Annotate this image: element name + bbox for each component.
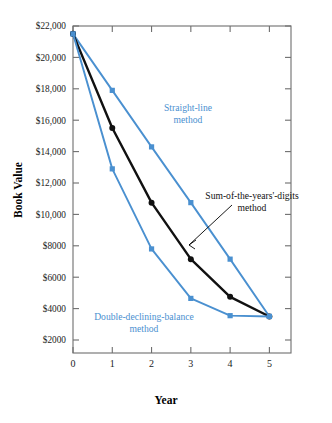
data-point-marker bbox=[228, 257, 233, 262]
data-point-marker bbox=[188, 296, 193, 301]
series-annotations: Straight-linemethodSum-of-the-years'-dig… bbox=[94, 102, 299, 334]
annotation-label-line2: method bbox=[174, 114, 203, 125]
data-point-marker bbox=[109, 125, 115, 131]
book-value-depreciation-chart: $22,000$20,000$18,000$16,000$14,000$12,0… bbox=[0, 0, 332, 423]
y-tick-label: $6000 bbox=[43, 273, 67, 283]
data-point-marker bbox=[110, 166, 115, 171]
y-tick-label: $4000 bbox=[43, 304, 67, 314]
y-tick-label: $16,000 bbox=[36, 116, 67, 126]
data-point-marker bbox=[149, 200, 155, 206]
data-point-marker bbox=[149, 246, 154, 251]
annotation-double-declining-balance: Double-declining-balancemethod bbox=[94, 311, 194, 334]
data-point-marker bbox=[188, 200, 193, 205]
y-tick-label: $10,000 bbox=[36, 210, 67, 220]
data-point-marker bbox=[227, 294, 233, 300]
data-point-marker bbox=[110, 88, 115, 93]
data-point-marker bbox=[149, 144, 154, 149]
y-tick-label: $12,000 bbox=[36, 178, 67, 188]
x-tick-label: 3 bbox=[188, 358, 193, 369]
data-point-marker bbox=[228, 313, 233, 318]
data-point-marker bbox=[188, 256, 194, 262]
y-tick-label: $2000 bbox=[43, 335, 67, 345]
annotation-label-line1: Double-declining-balance bbox=[94, 311, 194, 322]
chart-svg: $22,000$20,000$18,000$16,000$14,000$12,0… bbox=[0, 0, 332, 423]
y-axis-tick-labels: $22,000$20,000$18,000$16,000$14,000$12,0… bbox=[36, 21, 67, 345]
annotation-sum-of-years-digits: Sum-of-the-years'-digitsmethod bbox=[205, 190, 299, 213]
x-tick-label: 4 bbox=[228, 358, 233, 369]
y-tick-label: $14,000 bbox=[36, 147, 67, 157]
y-tick-label: $8000 bbox=[43, 241, 67, 251]
x-tick-label: 0 bbox=[71, 358, 76, 369]
series-1 bbox=[70, 31, 272, 319]
x-axis-title: Year bbox=[155, 394, 178, 406]
annotation-label-line2: method bbox=[238, 202, 267, 213]
y-tick-label: $18,000 bbox=[36, 84, 67, 94]
series-group bbox=[70, 31, 272, 320]
data-point-marker bbox=[267, 314, 272, 319]
x-tick-label: 1 bbox=[110, 358, 115, 369]
x-tick-label: 5 bbox=[267, 358, 272, 369]
data-point-marker bbox=[70, 31, 75, 36]
annotation-label-line1: Straight-line bbox=[164, 102, 212, 113]
y-tick-label: $22,000 bbox=[36, 21, 67, 31]
y-axis-title: Book Value bbox=[12, 162, 24, 218]
x-tick-label: 2 bbox=[149, 358, 154, 369]
sum-of-years-leader-line bbox=[189, 205, 232, 249]
x-axis-tick-labels: 012345 bbox=[71, 358, 272, 369]
y-tick-label: $20,000 bbox=[36, 53, 67, 63]
annotation-label-line2: method bbox=[130, 323, 159, 334]
annotation-label-line1: Sum-of-the-years'-digits bbox=[205, 190, 299, 201]
annotation-straight-line: Straight-linemethod bbox=[164, 102, 212, 125]
